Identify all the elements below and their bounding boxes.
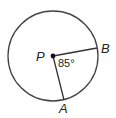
- radius-pb: [53, 48, 97, 56]
- center-point: [51, 54, 56, 59]
- label-b: B: [101, 41, 110, 56]
- circle-diagram: P B A 85°: [0, 0, 116, 118]
- label-p: P: [36, 49, 45, 64]
- label-a: A: [58, 101, 68, 116]
- angle-label: 85°: [58, 57, 75, 69]
